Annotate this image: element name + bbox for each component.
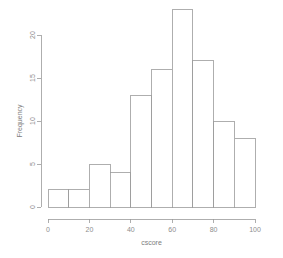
histogram-bar xyxy=(48,190,69,207)
histogram-bar xyxy=(131,95,152,207)
histogram-bar xyxy=(89,164,110,207)
y-axis-tick-label: 20 xyxy=(29,31,36,39)
x-axis-tick-label: 20 xyxy=(86,226,94,233)
x-axis-tick-label: 40 xyxy=(127,226,135,233)
histogram-canvas: 05101520 020406080100 Frequency cscore xyxy=(0,0,283,258)
y-axis-title: Frequency xyxy=(16,104,24,138)
x-axis-tick-label: 60 xyxy=(168,226,176,233)
y-axis-tick-label: 5 xyxy=(29,162,36,166)
histogram-bar xyxy=(110,173,131,207)
x-axis-tick-label: 0 xyxy=(46,226,50,233)
histogram-bar xyxy=(172,9,193,207)
x-axis-title: cscore xyxy=(141,239,162,246)
histogram-bar xyxy=(214,121,235,207)
x-axis-group: 020406080100 xyxy=(46,219,261,233)
y-axis-tick-label: 15 xyxy=(29,74,36,82)
y-axis-group: 05101520 xyxy=(29,31,41,209)
x-axis-tick-label: 100 xyxy=(249,226,261,233)
histogram-bar xyxy=(234,138,255,207)
histogram-bar xyxy=(193,61,214,207)
histogram-bar xyxy=(69,190,90,207)
histogram-plot: 05101520 020406080100 Frequency cscore xyxy=(0,0,283,258)
histogram-bar xyxy=(152,69,173,207)
y-axis-tick-label: 0 xyxy=(29,205,36,209)
x-axis-tick-label: 80 xyxy=(210,226,218,233)
y-axis-tick-label: 10 xyxy=(29,117,36,125)
bars-group xyxy=(48,9,255,207)
